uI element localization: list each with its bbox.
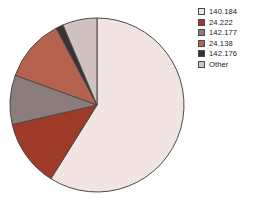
legend-color-swatch: [198, 61, 205, 68]
legend-item-label: 142.176: [209, 49, 237, 58]
legend-item-label: Other: [209, 60, 229, 69]
legend-item[interactable]: 24.222: [198, 17, 260, 27]
legend-color-swatch: [198, 29, 205, 36]
chart-legend: 140.18424.222142.17724.138142.176Other: [198, 7, 260, 70]
legend-item-label: 140.184: [209, 7, 237, 16]
pie-slice-group: [10, 18, 184, 192]
legend-item-label: 24.138: [209, 39, 233, 48]
legend-color-swatch: [198, 19, 205, 26]
pie-chart-figure: 140.18424.222142.17724.138142.176Other: [0, 0, 262, 212]
legend-color-swatch: [198, 40, 205, 47]
pie-svg: [0, 0, 196, 212]
legend-item[interactable]: 24.138: [198, 38, 260, 48]
legend-item-label: 24.222: [209, 18, 233, 27]
legend-item[interactable]: 140.184: [198, 7, 260, 17]
legend-item[interactable]: 142.177: [198, 28, 260, 38]
legend-color-swatch: [198, 8, 205, 15]
legend-color-swatch: [198, 50, 205, 57]
legend-item-label: 142.177: [209, 28, 237, 37]
legend-item[interactable]: 142.176: [198, 49, 260, 59]
pie-plot-area: [0, 0, 196, 212]
legend-item[interactable]: Other: [198, 59, 260, 69]
